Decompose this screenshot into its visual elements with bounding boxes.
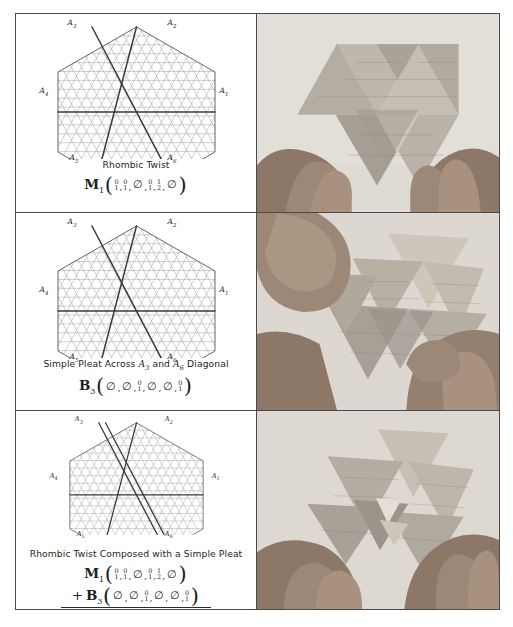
- vertex-label-a1: A1: [220, 285, 229, 296]
- empty-set-symbol: ∅: [162, 380, 174, 393]
- formula-symbol: M1: [84, 565, 103, 584]
- panel-1-caption: Rhombic Twist: [103, 160, 170, 171]
- formula-arg: ∅: [132, 568, 144, 581]
- formula-arguments: ∅,∅,01,∅,∅,01: [112, 589, 190, 602]
- fraction-denominator: 1: [185, 596, 190, 602]
- formula-plus-sign: +: [72, 588, 86, 603]
- fraction-denominator: 1: [178, 386, 183, 392]
- formula-comma: ,: [158, 383, 162, 393]
- formula-arg: ∅: [169, 589, 181, 602]
- formula-arg: ∅: [146, 380, 158, 393]
- figure-container: A3 A2 A1 A6 A5 A4 Rhombic Twist M1(01,01…: [15, 13, 500, 610]
- vertex-label-a3: A3: [68, 18, 77, 29]
- formula-comma: ,: [117, 383, 121, 393]
- empty-set-symbol: ∅: [166, 178, 178, 191]
- vertex-label-a5: A5: [70, 352, 79, 363]
- formula-arg: ∅: [132, 178, 144, 191]
- vertex-label-a3: A3: [74, 415, 82, 424]
- empty-set-symbol: ∅: [153, 589, 165, 602]
- hexagon-diagram-2: A3 A2 A1 A6 A5 A4: [24, 218, 249, 358]
- formula-expression: M1(01,01,∅,01,12,∅): [84, 565, 188, 584]
- vertex-label-a5: A5: [70, 153, 79, 164]
- formula-paren-right: ): [191, 588, 199, 605]
- formula-comma: ,: [162, 571, 166, 581]
- formula-arg: ∅: [153, 589, 165, 602]
- formula-comma: ,: [142, 383, 146, 393]
- caption-part: Diagonal: [184, 358, 229, 369]
- photo-rhombic-twist: [257, 14, 499, 212]
- fraction: 01: [178, 380, 183, 393]
- empty-set-symbol: ∅: [121, 380, 133, 393]
- photo-simple-pleat: [257, 213, 499, 411]
- triangular-grid-3: [35, 416, 238, 535]
- formula-arg: ∅: [166, 178, 178, 191]
- empty-set-symbol: ∅: [105, 380, 117, 393]
- fraction: 01: [185, 590, 190, 603]
- vertex-label-a4: A4: [49, 472, 57, 481]
- caption-part: Simple Pleat Across: [43, 358, 138, 369]
- formula-comma: ,: [124, 593, 128, 603]
- formula-arg: 01: [185, 590, 190, 603]
- hexagon-grid-svg-3: [35, 416, 238, 535]
- panel-3-formulas: M1(01,01,∅,01,12,∅)+B3(∅,∅,01,∅,∅,01)H1(…: [61, 562, 211, 609]
- formula-comma: ,: [165, 593, 169, 603]
- formula-arguments: 01,01,∅,01,12,∅: [114, 568, 178, 581]
- panel-2-formulas: B3(∅,∅,01,∅,∅,01): [79, 374, 193, 396]
- vertex-label-a6: A6: [164, 530, 172, 539]
- panel-3-caption: Rhombic Twist Composed with a Simple Ple…: [30, 549, 243, 560]
- formula-paren-left: (: [96, 378, 104, 395]
- formula-arg: 01: [178, 380, 183, 393]
- vertex-label-a6: A6: [168, 352, 177, 363]
- formula-paren-left: (: [105, 566, 113, 583]
- formula-comma: ,: [128, 182, 132, 192]
- panel-1-formulas: M1(01,01,∅,01,12,∅): [84, 173, 188, 195]
- formula-comma: ,: [162, 182, 166, 192]
- panel-3-diagram-cell: A3 A2 A1 A6 A5 A4 Rhombic Twist Composed…: [16, 411, 257, 609]
- caption-part: Rhombic Twist: [103, 159, 170, 170]
- vertex-label-a2: A2: [168, 217, 177, 228]
- empty-set-symbol: ∅: [132, 568, 144, 581]
- empty-set-symbol: ∅: [128, 589, 140, 602]
- panel-row-3: A3 A2 A1 A6 A5 A4 Rhombic Twist Composed…: [16, 411, 499, 609]
- vertex-label-a2: A2: [168, 18, 177, 29]
- vertex-label-a1: A1: [220, 86, 229, 97]
- panel-2-diagram-cell: A3 A2 A1 A6 A5 A4 Simple Pleat Across A3…: [16, 213, 257, 411]
- formula-arg: ∅: [121, 380, 133, 393]
- formula-arguments: ∅,∅,01,∅,∅,01: [105, 380, 183, 393]
- formula-arg: ∅: [128, 589, 140, 602]
- vertex-label-a3: A3: [68, 217, 77, 228]
- formula-symbol: M1: [84, 176, 103, 195]
- formula-expression: B3(∅,∅,01,∅,∅,01): [79, 377, 193, 396]
- formula-expression: M1(01,01,∅,01,12,∅): [84, 176, 188, 195]
- formula-paren-left: (: [105, 177, 113, 194]
- empty-set-symbol: ∅: [146, 380, 158, 393]
- formula-comma: ,: [149, 593, 153, 603]
- formula-paren-right: ): [179, 177, 187, 194]
- formula-paren-right: ): [184, 378, 192, 395]
- panel-2-photo-cell: [257, 213, 499, 411]
- panel-row-2: A3 A2 A1 A6 A5 A4 Simple Pleat Across A3…: [16, 213, 499, 412]
- caption-part: Rhombic Twist Composed with a Simple Ple…: [30, 548, 243, 559]
- vertex-label-a4: A4: [40, 86, 49, 97]
- empty-set-symbol: ∅: [112, 589, 124, 602]
- formula-sum-rule: [61, 607, 211, 608]
- formula-arg: ∅: [166, 568, 178, 581]
- formula-symbol: B3: [79, 377, 95, 396]
- panel-1-diagram-cell: A3 A2 A1 A6 A5 A4 Rhombic Twist M1(01,01…: [16, 14, 257, 212]
- empty-set-symbol: ∅: [169, 589, 181, 602]
- formula-expression: +B3(∅,∅,01,∅,∅,01): [72, 587, 200, 606]
- vertex-label-a5: A5: [76, 530, 84, 539]
- formula-comma: ,: [128, 571, 132, 581]
- empty-set-symbol: ∅: [132, 178, 144, 191]
- formula-paren-right: ): [179, 566, 187, 583]
- formula-arg: ∅: [105, 380, 117, 393]
- formula-arg: ∅: [162, 380, 174, 393]
- empty-set-symbol: ∅: [166, 568, 178, 581]
- photo-composed-twist: [257, 411, 499, 609]
- vertex-label-a2: A2: [164, 415, 172, 424]
- hexagon-grid-svg-1: [24, 19, 249, 159]
- hexagon-diagram-3: A3 A2 A1 A6 A5 A4: [35, 416, 238, 535]
- panel-3-photo-cell: [257, 411, 499, 609]
- formula-arg: ∅: [112, 589, 124, 602]
- formula-arguments: 01,01,∅,01,12,∅: [114, 178, 178, 191]
